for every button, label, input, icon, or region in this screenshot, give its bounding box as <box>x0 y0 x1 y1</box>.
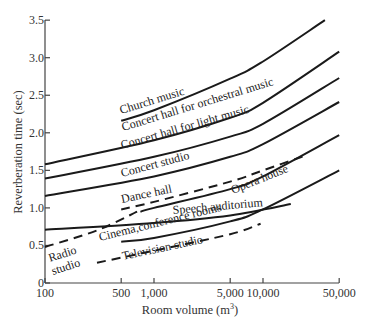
x-ticks: 1005001,0005,00010,00050,000 <box>36 278 356 300</box>
y-tick-label: 3.5 <box>29 13 44 27</box>
x-tick-label: 100 <box>36 286 54 300</box>
curve-concert-studio <box>45 102 339 196</box>
x-axis-title: Room volume (m3) <box>142 302 238 317</box>
y-tick-label: 2.5 <box>29 88 44 102</box>
x-tick-label: 5,000 <box>217 286 244 300</box>
label-dance-hall: Dance hall <box>120 181 174 206</box>
curve-labels: Church music Concert hall for orchestral… <box>47 74 290 278</box>
x-tick-label: 10,000 <box>247 286 280 300</box>
y-tick-label: 1.0 <box>29 201 44 215</box>
x-tick-label: 50,000 <box>323 286 356 300</box>
x-tick-label: 1,000 <box>141 286 168 300</box>
y-ticks: 00.51.01.52.02.53.03.5 <box>29 13 50 290</box>
y-tick-label: 2.0 <box>29 126 44 140</box>
label-concert-studio: Concert studio <box>119 148 191 180</box>
curves <box>45 20 339 263</box>
y-axis-title: Reverberation time (sec) <box>11 90 25 214</box>
reverberation-chart: 00.51.01.52.02.53.03.5 1005001,0005,0001… <box>0 0 366 330</box>
y-tick-label: 3.0 <box>29 51 44 65</box>
x-tick-label: 500 <box>112 286 130 300</box>
y-tick-label: 0.5 <box>29 238 44 252</box>
y-tick-label: 1.5 <box>29 163 44 177</box>
